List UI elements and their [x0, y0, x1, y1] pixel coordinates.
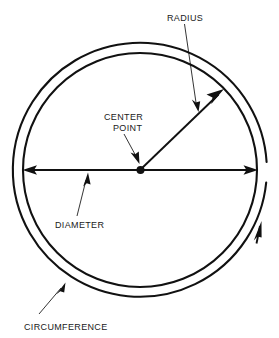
radius-arrowhead — [207, 89, 225, 104]
radius-leader-line — [185, 24, 197, 106]
label-center-point-line1: CENTER — [104, 112, 143, 122]
diameter-leader-line — [77, 180, 86, 216]
center-point-dot — [137, 166, 145, 174]
label-diameter: DIAMETER — [55, 220, 104, 230]
radius-line — [140, 95, 219, 171]
diameter-leader-arrowhead — [83, 173, 90, 187]
label-circumference: CIRCUMFERENCE — [24, 322, 108, 332]
diagram-canvas: RADIUS CENTER POINT DIAMETER CIRCUMFEREN… — [0, 0, 279, 338]
circumference-leader-line — [39, 288, 61, 314]
label-radius: RADIUS — [167, 13, 203, 23]
label-center-point-line2: POINT — [113, 123, 142, 133]
center-point-leader-arrowhead — [131, 152, 140, 165]
circle-parts-diagram: RADIUS CENTER POINT DIAMETER CIRCUMFEREN… — [0, 0, 279, 338]
